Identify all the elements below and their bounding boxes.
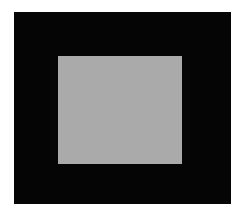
inner-gray-square [58, 56, 182, 164]
outer-black-square [14, 12, 231, 204]
